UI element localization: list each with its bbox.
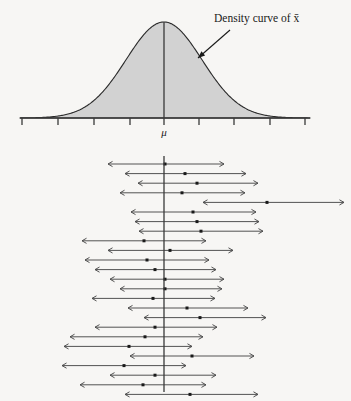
sample-mean-dot [196,182,199,185]
sample-mean-dot [128,345,131,348]
sample-mean-dot [184,172,187,175]
sample-mean-dot [152,297,155,300]
sample-mean-dot [199,316,202,319]
sample-mean-dot [200,230,203,233]
sample-mean-dot [189,393,192,396]
figure-container: μ Density curve of x̄ [0,0,351,401]
sample-mean-dot [192,211,195,214]
sample-mean-dot [143,239,146,242]
sample-mean-dot [146,259,149,262]
sample-mean-dot [181,191,184,194]
sample-mean-dot [266,201,269,204]
mu-axis-label: μ [160,126,167,138]
sample-mean-dot [196,220,199,223]
sample-mean-dot [154,374,157,377]
sample-mean-dot [123,364,126,367]
density-curve-annotation: Density curve of x̄ [214,12,300,25]
statistics-figure: μ Density curve of x̄ [0,0,351,401]
sample-mean-dot [144,335,147,338]
sample-mean-dot [142,383,145,386]
sample-mean-dot [154,268,157,271]
sample-mean-dot [169,249,172,252]
sample-mean-dot [191,355,194,358]
sample-mean-dot [186,307,189,310]
sample-mean-dot [154,326,157,329]
